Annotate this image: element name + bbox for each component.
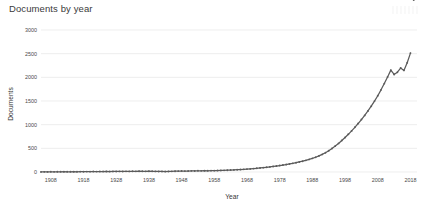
data-point <box>141 170 143 172</box>
data-point <box>328 150 330 152</box>
data-series-line <box>41 53 410 172</box>
data-point <box>311 157 313 159</box>
y-tick-label: 2500 <box>25 51 37 57</box>
data-point <box>158 170 160 172</box>
x-tick-label: 2018 <box>404 177 416 183</box>
data-point <box>396 71 398 73</box>
line-chart-svg: 050010001500200025003000 190819181928193… <box>0 0 430 207</box>
data-point <box>154 170 156 172</box>
data-point <box>83 171 85 173</box>
data-point <box>390 69 392 71</box>
data-point <box>393 74 395 76</box>
data-point <box>285 164 287 166</box>
y-axis-tick-labels: 050010001500200025003000 <box>25 27 37 175</box>
data-point <box>406 62 408 64</box>
data-point <box>259 167 261 169</box>
data-point <box>200 170 202 172</box>
data-point <box>357 123 359 125</box>
data-point <box>403 69 405 71</box>
data-point <box>298 161 300 163</box>
data-point <box>56 171 58 173</box>
data-point <box>331 148 333 150</box>
data-point <box>109 171 111 173</box>
data-point <box>217 170 219 172</box>
data-point <box>347 133 349 135</box>
gridlines <box>41 30 417 172</box>
data-point <box>89 171 91 173</box>
data-point <box>99 171 101 173</box>
data-point <box>223 169 225 171</box>
data-point <box>174 170 176 172</box>
data-point <box>96 171 98 173</box>
data-point <box>370 105 372 107</box>
data-point <box>243 168 245 170</box>
data-point <box>151 170 153 172</box>
data-point <box>239 169 241 171</box>
data-point <box>197 170 199 172</box>
data-point <box>148 170 150 172</box>
data-point <box>351 130 353 132</box>
data-point <box>233 169 235 171</box>
data-point <box>190 170 192 172</box>
data-point <box>168 170 170 172</box>
data-point <box>279 165 281 167</box>
x-tick-label: 1908 <box>45 177 57 183</box>
data-point <box>400 67 402 69</box>
data-point <box>213 170 215 172</box>
data-point <box>119 170 121 172</box>
data-point <box>341 140 343 142</box>
data-point <box>249 168 251 170</box>
data-point <box>374 100 376 102</box>
data-point <box>383 83 385 85</box>
data-point <box>40 171 42 173</box>
data-point <box>105 171 107 173</box>
data-point <box>246 168 248 170</box>
data-point <box>289 163 291 165</box>
data-point <box>164 171 166 173</box>
data-point <box>47 171 49 173</box>
y-tick-label: 0 <box>34 169 37 175</box>
data-point <box>92 171 94 173</box>
data-point <box>321 153 323 155</box>
data-point <box>210 170 212 172</box>
data-point <box>226 169 228 171</box>
data-point <box>302 160 304 162</box>
data-point <box>76 171 78 173</box>
data-point <box>236 169 238 171</box>
data-point <box>161 171 163 173</box>
x-tick-label: 1918 <box>78 177 90 183</box>
x-tick-label: 1928 <box>110 177 122 183</box>
data-point <box>364 114 366 116</box>
data-point <box>305 159 307 161</box>
data-point <box>86 171 88 173</box>
data-point <box>380 89 382 91</box>
data-point <box>125 170 127 172</box>
data-point <box>315 156 317 158</box>
data-point <box>181 170 183 172</box>
data-point <box>360 119 362 121</box>
data-point <box>367 110 369 112</box>
data-point <box>272 166 274 168</box>
data-point <box>344 137 346 139</box>
data-point <box>253 168 255 170</box>
data-point <box>413 0 415 1</box>
chart-panel: Documents by year 0500100015002000250030… <box>0 0 430 207</box>
data-point <box>53 171 55 173</box>
data-point <box>43 171 45 173</box>
data-point <box>79 171 81 173</box>
data-point <box>230 169 232 171</box>
data-point <box>63 171 65 173</box>
data-point <box>204 170 206 172</box>
data-point <box>338 142 340 144</box>
data-point <box>132 170 134 172</box>
data-point <box>102 171 104 173</box>
data-point <box>295 162 297 164</box>
x-tick-label: 1968 <box>241 177 253 183</box>
data-point <box>171 170 173 172</box>
y-tick-label: 1500 <box>25 98 37 104</box>
data-point <box>177 170 179 172</box>
data-point <box>194 170 196 172</box>
data-point <box>184 170 186 172</box>
data-point <box>145 170 147 172</box>
data-point <box>128 170 130 172</box>
